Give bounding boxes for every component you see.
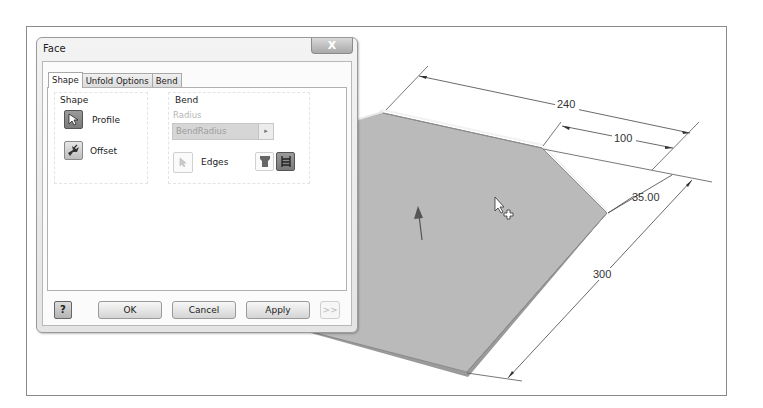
- profile-label: Profile: [92, 115, 120, 125]
- radius-label: Radius: [173, 110, 202, 120]
- edge-single-icon: [259, 155, 271, 168]
- tab-bend[interactable]: Bend: [152, 73, 182, 87]
- help-button[interactable]: ?: [54, 301, 72, 319]
- face-dialog: Face X Shape Unfold Options Bend Shape P…: [36, 37, 358, 333]
- close-button[interactable]: X: [311, 38, 353, 54]
- close-icon: X: [328, 39, 336, 52]
- edges-select-button[interactable]: [173, 152, 193, 173]
- cursor-select-icon: [179, 157, 188, 168]
- edges-label: Edges: [201, 157, 228, 167]
- tab-panel-shape: Shape Profile Offset Bend Radius BendRad…: [47, 87, 347, 291]
- dropdown-arrow-icon[interactable]: ▸: [258, 124, 273, 139]
- edge-mode-all-button[interactable]: [276, 152, 295, 171]
- tab-unfold-options[interactable]: Unfold Options: [82, 73, 153, 87]
- bend-radius-value: BendRadius: [176, 126, 226, 136]
- ok-button[interactable]: OK: [98, 301, 162, 319]
- dialog-body: Shape Unfold Options Bend Shape Profile …: [42, 61, 352, 326]
- shape-group: [54, 92, 148, 184]
- dimension-arrow: [562, 126, 570, 130]
- dimension-arrow: [419, 76, 427, 79]
- profile-button[interactable]: [64, 110, 83, 129]
- dimension-240[interactable]: 240: [557, 98, 575, 110]
- tab-shape[interactable]: Shape: [48, 72, 83, 88]
- edge-all-icon: [280, 155, 292, 168]
- bend-group-label: Bend: [175, 95, 198, 105]
- extension-line: [467, 373, 522, 381]
- extension-line: [386, 66, 428, 110]
- offset-flip-icon: [67, 144, 80, 157]
- bend-radius-dropdown[interactable]: BendRadius ▸: [172, 123, 274, 140]
- edge-mode-single-button[interactable]: [255, 152, 274, 171]
- offset-button[interactable]: [64, 141, 83, 160]
- extension-line: [652, 122, 699, 170]
- more-options-button[interactable]: >>: [320, 301, 340, 319]
- dimension-300[interactable]: 300: [593, 268, 611, 280]
- apply-button[interactable]: Apply: [246, 301, 310, 319]
- dialog-title: Face: [43, 43, 66, 54]
- shape-group-label: Shape: [60, 95, 88, 105]
- dimension-100[interactable]: 100: [614, 132, 632, 144]
- cursor-select-icon: [68, 113, 79, 126]
- tab-strip: Shape Unfold Options Bend: [48, 73, 181, 88]
- offset-label: Offset: [90, 146, 117, 156]
- dimension-35[interactable]: 35.00: [632, 191, 660, 203]
- cancel-button[interactable]: Cancel: [172, 301, 236, 319]
- extension-line: [543, 122, 561, 146]
- dimension-line-240: [419, 76, 690, 133]
